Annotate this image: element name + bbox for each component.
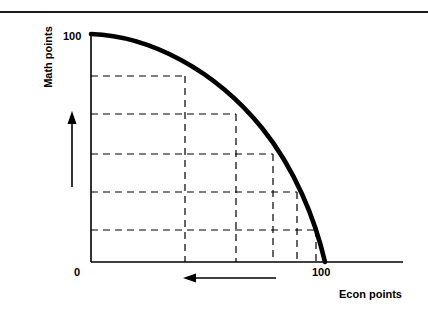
x-axis-max-tick-label: 100: [312, 266, 330, 278]
y-axis-max-tick-label: 100: [63, 30, 81, 42]
ppf-curve: [91, 34, 325, 262]
axis-lines: [91, 32, 403, 262]
ppf-plot-svg: [0, 0, 428, 313]
left-arrow-head: [183, 274, 196, 283]
left-arrow-decreasing-econ: [183, 274, 276, 283]
up-arrow-increasing-math: [68, 111, 77, 187]
dashed-guide-lines: [91, 76, 316, 262]
ppf-figure: Math points 100 0 100 Econ points: [0, 0, 428, 313]
up-arrow-head: [68, 111, 77, 124]
origin-tick-label: 0: [74, 266, 80, 278]
x-axis-title: Econ points: [339, 288, 402, 300]
y-axis-title: Math points: [42, 26, 54, 88]
